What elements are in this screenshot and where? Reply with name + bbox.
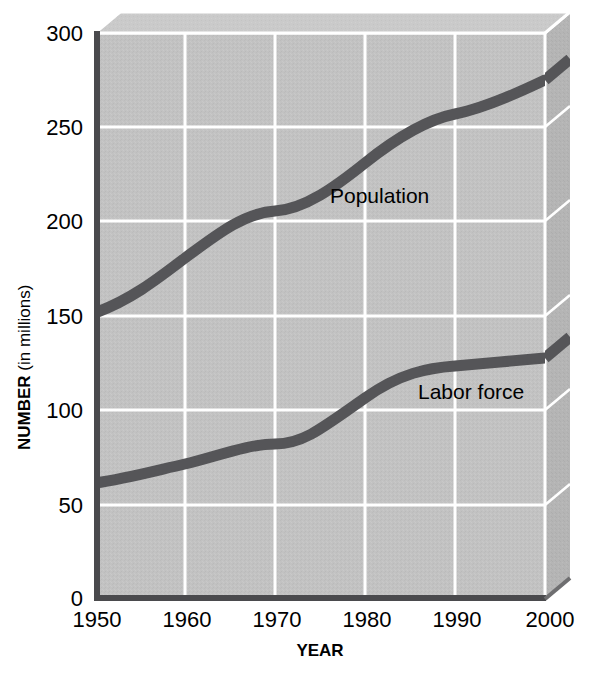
y-axis-title-bold: NUMBER xyxy=(15,375,34,450)
x-tick-label-1970: 1970 xyxy=(253,607,302,632)
y-tick-label-150: 150 xyxy=(46,304,83,329)
x-tick-label-2000: 2000 xyxy=(526,607,575,632)
y-axis-tick-labels: 300 250 200 150 100 50 0 xyxy=(46,21,83,611)
x-tick-label-1960: 1960 xyxy=(163,607,212,632)
y-tick-label-300: 300 xyxy=(46,21,83,46)
x-tick-label-1990: 1990 xyxy=(433,607,482,632)
x-tick-label-1950: 1950 xyxy=(73,607,122,632)
x-axis-title: YEAR xyxy=(296,641,343,660)
y-axis-title-plain: (in millions) xyxy=(15,285,34,376)
svg-text:NUMBER (in millions): NUMBER (in millions) xyxy=(15,285,34,450)
series-label-population: Population xyxy=(330,184,429,207)
y-tick-label-50: 50 xyxy=(59,493,83,518)
x-tick-label-1980: 1980 xyxy=(343,607,392,632)
x-axis-tick-labels: 1950 1960 1970 1980 1990 2000 xyxy=(73,607,575,632)
y-axis-title: NUMBER (in millions) xyxy=(15,285,34,450)
series-label-labor-force: Labor force xyxy=(418,380,524,403)
chart-container: 300 250 200 150 100 50 0 1950 1960 1970 … xyxy=(0,0,594,674)
y-tick-label-200: 200 xyxy=(46,209,83,234)
chart-top-face xyxy=(95,12,570,33)
y-tick-label-250: 250 xyxy=(46,115,83,140)
y-tick-label-100: 100 xyxy=(46,398,83,423)
line-chart: 300 250 200 150 100 50 0 1950 1960 1970 … xyxy=(0,0,594,674)
